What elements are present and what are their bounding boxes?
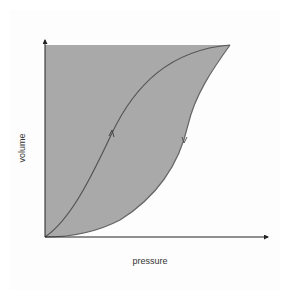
x-axis-label: pressure (132, 256, 167, 266)
pv-diagram (0, 0, 290, 299)
y-axis-label: volume (17, 133, 27, 162)
